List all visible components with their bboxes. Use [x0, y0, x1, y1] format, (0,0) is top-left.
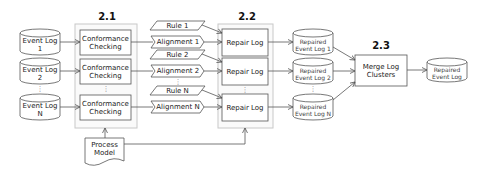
ellipsis-inputs: ⋮: [35, 84, 45, 94]
section-label-2-1: 2.1: [96, 11, 118, 22]
conformance-1-label: Conformance Checking: [80, 30, 131, 55]
conformance-2-label: Conformance Checking: [80, 59, 131, 84]
ellipsis-repaired: ⋮: [308, 84, 318, 94]
event-log-1-label: Event Log 1: [20, 38, 60, 52]
process-model-label: Process Model: [85, 139, 124, 159]
repaired-log-n-label: Repaired Event Log N: [293, 102, 333, 118]
rule-n-label: Rule N: [153, 86, 202, 95]
event-log-2-label: Event Log 2: [20, 67, 60, 81]
repair-1-label: Repair Log: [222, 29, 268, 56]
process-repair-diagram: 2.1 2.2 2.3 Event Log 1 Event Log 2 Even…: [0, 0, 487, 178]
rule-2-label: Rule 2: [153, 50, 202, 59]
alignment-1-label: Alignment 1: [154, 36, 202, 48]
conformance-n-label: Conformance Checking: [80, 95, 131, 120]
rule-1-label: Rule 1: [153, 21, 202, 30]
repaired-log-1-label: Repaired Event Log 1: [293, 37, 333, 53]
section-label-2-3: 2.3: [370, 40, 392, 51]
alignment-n-label: Alignment N: [154, 101, 202, 113]
ellipsis-repair: ⋮: [240, 85, 250, 94]
ellipsis-conformance: ⋮: [101, 84, 111, 94]
repair-n-label: Repair Log: [222, 94, 268, 121]
section-label-2-2: 2.2: [236, 11, 258, 22]
ellipsis-rules: ⋮: [173, 77, 183, 86]
repair-2-label: Repair Log: [222, 58, 268, 85]
alignment-2-label: Alignment 2: [154, 65, 202, 77]
event-log-n-label: Event Log N: [20, 103, 60, 117]
merge-label: Merge Log Clusters: [355, 55, 407, 86]
output-log-label: Repaired Event Log: [427, 65, 467, 81]
repaired-log-2-label: Repaired Event Log 2: [293, 66, 333, 82]
